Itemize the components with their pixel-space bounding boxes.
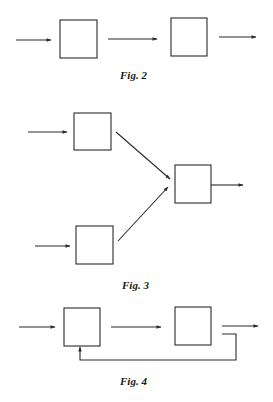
figure-3-caption: Fig. 3 <box>122 280 149 291</box>
figure-4 <box>19 307 258 360</box>
fig3-top-block <box>74 113 111 150</box>
fig4-block-1 <box>64 308 100 346</box>
fig4-block-2 <box>175 307 211 345</box>
fig3-top-diagonal-arrow <box>116 132 170 179</box>
fig3-output-block <box>175 165 211 203</box>
fig3-bottom-diagonal-arrow <box>118 187 168 241</box>
figure-2 <box>16 18 256 58</box>
fig3-bottom-block <box>76 226 113 264</box>
fig4-feedback-arrow <box>80 334 236 360</box>
figure-2-caption: Fig. 2 <box>120 70 147 81</box>
figure-3 <box>28 113 243 264</box>
fig2-block-2 <box>171 18 207 56</box>
fig2-block-1 <box>60 20 97 58</box>
figure-4-caption: Fig. 4 <box>120 376 147 387</box>
diagram-canvas <box>0 0 273 402</box>
